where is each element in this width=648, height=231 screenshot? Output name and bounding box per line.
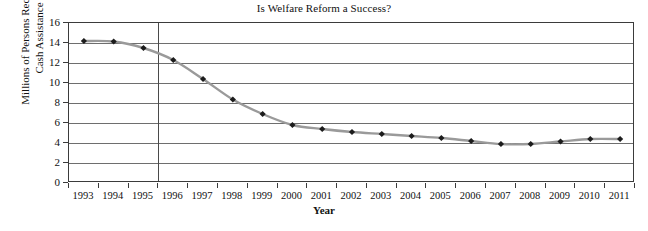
data-point-marker <box>379 131 385 137</box>
x-tick-mark <box>128 183 129 188</box>
y-tick-label: 6 <box>38 117 60 127</box>
data-point-marker <box>140 45 146 51</box>
x-tick-mark <box>217 183 218 188</box>
x-tick-mark <box>157 183 158 188</box>
chart-figure: Is Welfare Reform a Success? Millions of… <box>0 0 648 231</box>
x-tick-mark <box>545 183 546 188</box>
chart-title: Is Welfare Reform a Success? <box>0 2 648 14</box>
data-point-marker <box>528 141 534 147</box>
x-axis-title: Year <box>0 204 648 216</box>
x-tick-mark <box>187 183 188 188</box>
data-point-marker <box>617 136 623 142</box>
series-line <box>84 41 620 145</box>
data-point-marker <box>111 38 117 44</box>
plot-area <box>68 22 634 182</box>
data-point-marker <box>81 38 87 44</box>
x-tick-mark <box>604 183 605 188</box>
y-tick-label: 16 <box>38 17 60 27</box>
data-point-marker <box>498 141 504 147</box>
x-tick-mark <box>515 183 516 188</box>
x-tick-mark <box>485 183 486 188</box>
x-tick-mark <box>425 183 426 188</box>
y-tick-label: 8 <box>38 97 60 107</box>
data-point-marker <box>438 135 444 141</box>
x-tick-mark <box>455 183 456 188</box>
x-tick-mark <box>68 183 69 188</box>
data-point-marker <box>468 138 474 144</box>
x-tick-mark <box>336 183 337 188</box>
y-axis-title-line-2: Cash Assistance <box>32 0 46 105</box>
y-tick-label: 2 <box>38 157 60 167</box>
data-series-line <box>69 23 635 183</box>
x-tick-mark <box>396 183 397 188</box>
x-tick-label: 2011 <box>599 190 639 201</box>
data-point-marker <box>408 133 414 139</box>
x-tick-mark <box>247 183 248 188</box>
y-tick-label: 14 <box>38 37 60 47</box>
data-point-marker <box>557 138 563 144</box>
data-point-marker <box>319 126 325 132</box>
y-tick-label: 10 <box>38 77 60 87</box>
x-tick-mark <box>277 183 278 188</box>
x-tick-mark <box>366 183 367 188</box>
y-axis-title-line-1: Millions of Persons Receiving <box>18 0 32 105</box>
y-tick-label: 0 <box>38 177 60 187</box>
x-tick-mark <box>306 183 307 188</box>
x-tick-mark <box>574 183 575 188</box>
data-point-marker <box>289 122 295 128</box>
x-tick-mark <box>98 183 99 188</box>
y-tick-label: 4 <box>38 137 60 147</box>
x-tick-mark <box>634 183 635 188</box>
data-point-marker <box>349 129 355 135</box>
y-tick-label: 12 <box>38 57 60 67</box>
data-point-marker <box>587 136 593 142</box>
